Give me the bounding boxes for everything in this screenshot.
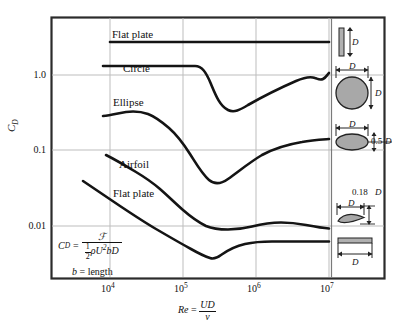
formula-equals: = (73, 240, 79, 251)
formula-fraction: ℱ 12ρU2bD (82, 231, 122, 261)
dim-label-ellipse-height-D: D (385, 137, 392, 146)
dim-label-airfoil-thickness-D: D (375, 188, 382, 197)
x-axis-title: Re = UDv (178, 300, 216, 322)
dim-label-airfoil-chord-D: D (348, 199, 355, 208)
chart-canvas (0, 0, 399, 331)
y-tick-label-0.1: 0.1 (24, 145, 46, 155)
formula-note-length: = length (80, 266, 113, 277)
dim-label-plate-D: D (352, 38, 359, 47)
curve-label-ellipse: Ellipse (113, 97, 144, 108)
dim-label-hplate-D: D (352, 258, 359, 267)
curve-label-flat-plate-normal: Flat plate (112, 29, 153, 40)
x-tick-label-1e5: 105 (174, 282, 188, 294)
dim-label-ellipse-width-D: D (349, 120, 356, 129)
cd-formula: CD = ℱ 12ρU2bD b = length (58, 231, 122, 277)
x-tick-label-1e4: 104 (101, 282, 115, 294)
dim-label-ellipse-height-value: 0.5 (371, 137, 382, 146)
curve-label-circle: Circle (123, 63, 150, 74)
dim-label-circle-height-D: D (375, 89, 382, 98)
formula-rho-u: ρU (91, 245, 103, 256)
dim-label-circle-width-D: D (349, 62, 356, 71)
curve-label-airfoil: Airfoil (119, 159, 149, 170)
x-tick-label-1e6: 106 (247, 282, 261, 294)
formula-cd-symbol: C (58, 240, 65, 251)
y-axis-title: CD (6, 119, 20, 132)
drag-coefficient-chart: CD 1.0 0.1 0.01 104 105 106 107 Re = UDv… (0, 0, 399, 331)
curve-label-flat-plate-parallel: Flat plate (113, 188, 154, 199)
formula-note-b: b (72, 266, 77, 277)
formula-cd-subscript: D (65, 241, 70, 250)
x-tick-label-1e7: 107 (320, 282, 334, 294)
dim-label-airfoil-thickness-value: 0.18 (352, 188, 368, 197)
y-tick-label-1: 1.0 (24, 70, 46, 80)
formula-bd: bD (107, 245, 119, 256)
formula-denominator: 12ρU2bD (82, 243, 122, 261)
y-tick-label-0.01: 0.01 (19, 221, 46, 231)
